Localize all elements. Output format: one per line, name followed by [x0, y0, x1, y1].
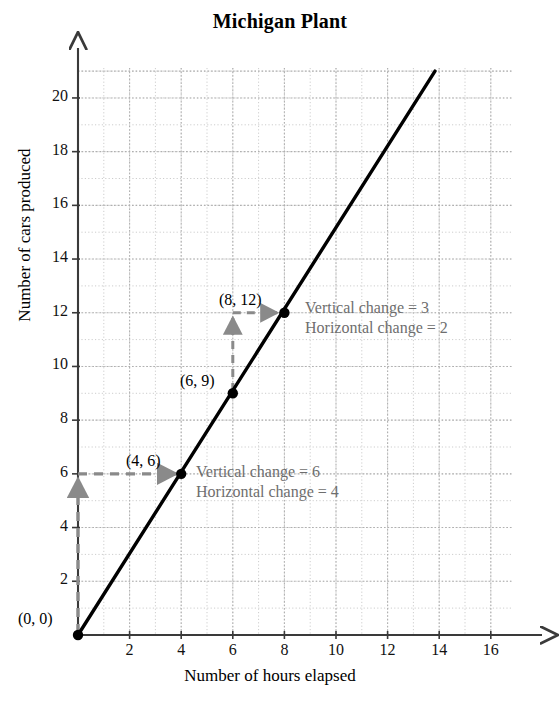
annotation-lower-horizontal-text: Horizontal change = 4	[196, 482, 339, 502]
data-line	[78, 71, 435, 635]
chart-title: Michigan Plant	[0, 10, 560, 33]
x-tick-label-16: 16	[476, 641, 506, 659]
grid-major	[78, 68, 512, 635]
data-point-4-6[interactable]	[176, 469, 186, 479]
y-tick-label-2: 2	[34, 570, 68, 588]
point-label-4-6: (4, 6)	[126, 452, 161, 470]
grid-minor	[78, 68, 512, 635]
y-tick-label-20: 20	[34, 87, 68, 105]
data-point-0-0[interactable]	[73, 630, 83, 640]
y-tick-label-16: 16	[34, 194, 68, 212]
y-tick-label-8: 8	[34, 409, 68, 427]
point-label-8-12: (8, 12)	[219, 291, 262, 309]
annotation-upper: Vertical change = 3 Horizontal change = …	[305, 298, 448, 337]
point-label-0-0: (0, 0)	[18, 610, 53, 628]
x-tick-label-6: 6	[218, 641, 248, 659]
x-tick-label-4: 4	[166, 641, 196, 659]
y-tick-label-10: 10	[34, 355, 68, 373]
y-tick-label-6: 6	[34, 463, 68, 481]
annotation-upper-vertical-text: Vertical change = 3	[305, 298, 448, 318]
x-tick-label-8: 8	[269, 641, 299, 659]
y-tick-label-4: 4	[34, 517, 68, 535]
annotation-lower: Vertical change = 6 Horizontal change = …	[196, 462, 339, 501]
chart-figure: Michigan Plant Number of cars produced N…	[0, 0, 560, 701]
data-point-8-12[interactable]	[279, 308, 289, 318]
x-tick-label-14: 14	[424, 641, 454, 659]
x-tick-label-12: 12	[373, 641, 403, 659]
y-tick-label-14: 14	[34, 248, 68, 266]
y-axis-label: Number of cars produced	[15, 85, 35, 385]
x-axis-label: Number of hours elapsed	[60, 666, 480, 686]
data-point-6-9[interactable]	[228, 388, 238, 398]
y-tick-label-18: 18	[34, 141, 68, 159]
x-tick-label-10: 10	[321, 641, 351, 659]
plot-area	[0, 0, 560, 701]
annotation-upper-horizontal-text: Horizontal change = 2	[305, 318, 448, 338]
y-tick-label-12: 12	[34, 302, 68, 320]
annotation-lower-vertical-text: Vertical change = 6	[196, 462, 339, 482]
point-label-6-9: (6, 9)	[180, 372, 215, 390]
x-tick-label-2: 2	[115, 641, 145, 659]
